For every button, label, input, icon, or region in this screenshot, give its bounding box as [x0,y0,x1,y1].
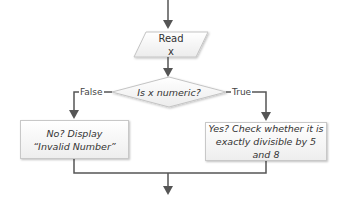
merge-connector [74,158,266,195]
true-action-box: Yes? Check whether it is exactly divisib… [205,122,327,161]
read-node-line2: x [140,45,202,58]
entry-arrow [163,0,173,29]
false-action-box: No? Display “Invalid Number” [20,120,129,159]
read-to-decision-arrow [163,57,173,77]
true-box-line1: Yes? Check whether it is [206,122,326,135]
false-box-line1: No? Display [33,127,116,140]
decision-node-label: Is x numeric? [120,86,218,99]
true-branch-label: True [231,87,252,97]
false-branch-label: False [79,87,104,97]
read-node-line1: Read [140,32,202,45]
false-box-line2: “Invalid Number” [33,140,116,153]
connector-lines [0,0,343,202]
read-node: Read x [140,32,202,58]
true-box-line2: exactly divisible by 5 and 8 [206,135,326,161]
